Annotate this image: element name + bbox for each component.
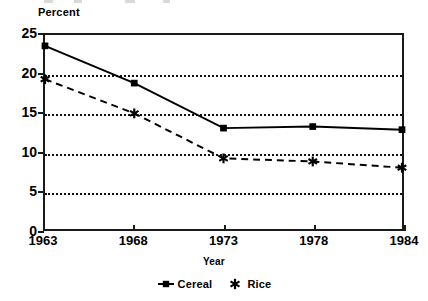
x-tick-label: 1963: [29, 234, 58, 247]
y-axis-title: Percent: [38, 6, 80, 18]
scan-artifact: [74, 0, 82, 3]
x-tick-mark: [43, 225, 45, 231]
scan-artifact: [125, 0, 135, 3]
square-marker-icon: [162, 281, 168, 287]
y-tick-mark: [38, 112, 44, 114]
y-tick-label: 10: [21, 145, 37, 159]
chart-legend: CerealRice: [0, 278, 428, 290]
series-line-cereal: [45, 46, 402, 130]
asterisk-marker-icon: [231, 279, 240, 289]
x-axis-tick-labels: 19631968197319781984: [0, 234, 428, 256]
y-tick-mark: [38, 231, 44, 233]
x-tick-mark: [133, 225, 135, 231]
x-tick-mark: [314, 225, 316, 231]
square-marker-icon: [309, 123, 316, 130]
x-tick-mark: [404, 225, 406, 231]
y-tick-label: 15: [21, 105, 37, 119]
y-tick-mark: [38, 33, 44, 35]
y-tick-label: 20: [21, 66, 37, 80]
x-tick-label: 1984: [390, 234, 419, 247]
y-tick-mark: [38, 73, 44, 75]
square-marker-icon: [399, 126, 406, 133]
x-tick-label: 1978: [299, 234, 328, 247]
data-series-layer: [45, 35, 402, 229]
square-marker-icon: [131, 80, 138, 87]
x-axis-title: Year: [0, 256, 428, 267]
scan-artifact: [163, 0, 170, 3]
chart-figure: Percent 0510152025 19631968197319781984 …: [0, 0, 428, 301]
x-tick-label: 1968: [119, 234, 148, 247]
plot-area: [43, 33, 404, 231]
y-tick-label: 5: [29, 184, 37, 198]
asterisk-marker-icon: [226, 278, 244, 290]
legend-label: Cereal: [178, 278, 213, 290]
scan-artifact: [44, 0, 53, 3]
legend-item-cereal[interactable]: Cereal: [157, 278, 213, 290]
y-tick-mark: [38, 152, 44, 154]
y-tick-mark: [38, 191, 44, 193]
y-tick-label: 25: [21, 26, 37, 40]
legend-item-rice[interactable]: Rice: [226, 278, 271, 290]
asterisk-marker-icon: [130, 108, 139, 118]
legend-label: Rice: [247, 278, 271, 290]
square-marker-icon: [42, 43, 49, 50]
x-tick-label: 1973: [209, 234, 238, 247]
square-marker-icon: [220, 125, 227, 132]
x-tick-mark: [224, 225, 226, 231]
asterisk-marker-icon: [219, 153, 228, 163]
square-marker-icon: [157, 278, 175, 290]
